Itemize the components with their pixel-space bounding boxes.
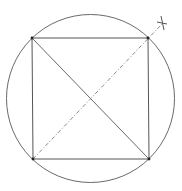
vertex-top-left (31, 37, 34, 40)
vertex-bottom-right (148, 158, 151, 161)
vertex-bottom-left (32, 158, 35, 161)
inscribed-square-diagram (0, 0, 182, 191)
dash-dot-diagonal-extension (33, 24, 162, 159)
vertex-top-right (147, 37, 150, 40)
